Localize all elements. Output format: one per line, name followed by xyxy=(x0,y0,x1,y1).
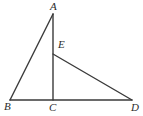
segment-AB xyxy=(10,14,53,100)
figure-canvas xyxy=(0,0,143,116)
geometry-figure: A B C D E xyxy=(0,0,143,116)
vertex-label-E: E xyxy=(58,39,65,50)
vertex-label-C: C xyxy=(49,102,56,113)
vertex-label-B: B xyxy=(4,101,11,112)
vertex-label-A: A xyxy=(50,1,57,12)
segment-ED xyxy=(53,54,132,100)
vertex-label-D: D xyxy=(131,102,139,113)
